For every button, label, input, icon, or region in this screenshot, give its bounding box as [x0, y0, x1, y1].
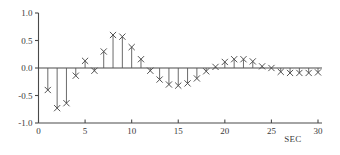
y-tick-label: -1.0: [18, 118, 33, 128]
chart-background: [0, 0, 340, 155]
x-tick-label: 20: [220, 126, 230, 136]
y-tick-label: 0.5: [21, 36, 33, 46]
stem-plot: -1.0-0.50.00.51.0 051015202530 SEC: [0, 0, 340, 155]
x-tick-label: 15: [174, 126, 184, 136]
x-tick-label: 30: [314, 126, 324, 136]
y-tick-label: 1.0: [21, 8, 33, 18]
chart-figure: -1.0-0.50.00.51.0 051015202530 SEC: [0, 0, 340, 155]
x-axis-unit-label: SEC: [284, 134, 301, 144]
x-tick-label: 25: [267, 126, 277, 136]
x-tick-label: 5: [83, 126, 88, 136]
y-tick-label: 0.0: [21, 63, 33, 73]
y-tick-label: -0.5: [18, 91, 33, 101]
x-tick-label: 10: [127, 126, 137, 136]
x-tick-label: 0: [36, 126, 41, 136]
